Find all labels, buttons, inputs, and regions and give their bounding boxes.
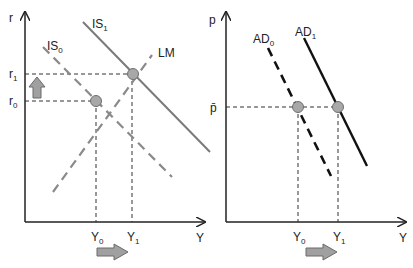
equilibrium-point-0-left	[91, 96, 102, 107]
pbar-label: p̄	[210, 101, 217, 115]
y1-label-right: Y1	[333, 230, 346, 246]
up-arrow-icon	[29, 77, 45, 98]
right-arrow-icon	[97, 244, 128, 260]
r-axis-label: r	[9, 11, 13, 25]
equilibrium-point-1-left	[128, 69, 139, 80]
is1-curve	[83, 22, 210, 152]
islm-ad-diagram: r Y IS0 IS1 LM r1 r0 Y0 Y1 p Y	[0, 0, 413, 268]
y1-label-left: Y1	[127, 230, 140, 246]
y0-label-right: Y0	[293, 230, 306, 246]
equilibrium-point-1-right	[333, 102, 344, 113]
right-panel: p Y AD0 AD1 p̄ Y0 Y1	[209, 12, 407, 260]
p-axis-label: p	[209, 13, 216, 27]
r0-label: r0	[9, 94, 18, 110]
equilibrium-point-0-right	[293, 102, 304, 113]
y0-label-left: Y0	[91, 230, 104, 246]
ad0-label: AD0	[253, 32, 275, 48]
ad1-label: AD1	[295, 25, 317, 41]
y-axis-label-right: Y	[399, 231, 407, 245]
is0-curve	[43, 47, 172, 177]
right-arrow-icon	[306, 244, 337, 260]
lm-label: LM	[158, 46, 175, 60]
is0-label: IS0	[47, 39, 63, 55]
y-axis-label-left: Y	[196, 231, 204, 245]
is1-label: IS1	[92, 17, 108, 33]
r1-label: r1	[9, 67, 18, 83]
left-panel: r Y IS0 IS1 LM r1 r0 Y0 Y1	[9, 11, 210, 260]
